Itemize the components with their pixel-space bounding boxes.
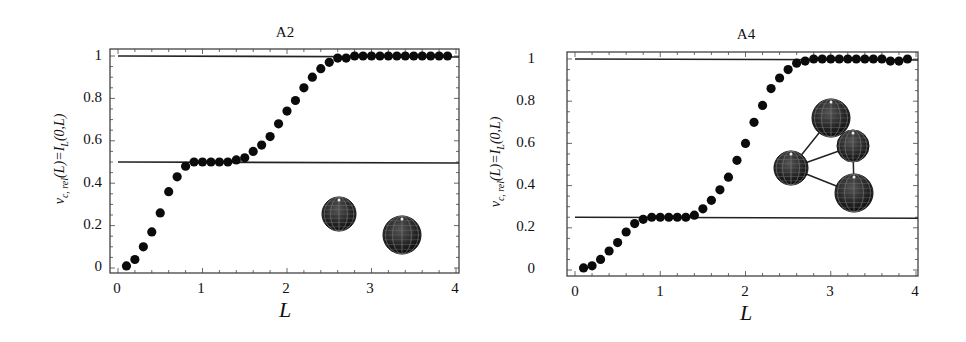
data-point xyxy=(673,213,682,222)
sphere-icon xyxy=(774,151,808,185)
data-point xyxy=(443,51,452,60)
x-tick: 4 xyxy=(905,283,925,300)
data-point xyxy=(869,54,878,63)
data-point xyxy=(903,54,912,63)
x-tick: 3 xyxy=(820,283,840,300)
data-point xyxy=(792,59,801,68)
data-point xyxy=(732,156,741,165)
data-point xyxy=(358,51,367,60)
data-point xyxy=(266,132,275,141)
data-point xyxy=(333,54,342,63)
y-tick: 0.4 xyxy=(505,176,535,193)
data-point xyxy=(139,242,148,251)
y-tick: 0 xyxy=(72,258,102,275)
data-point xyxy=(894,57,903,66)
y-tick: 0.8 xyxy=(72,89,102,106)
data-point xyxy=(435,51,444,60)
data-point xyxy=(274,119,283,128)
data-point xyxy=(775,73,784,82)
data-point xyxy=(596,255,605,264)
data-point xyxy=(758,101,767,110)
data-point xyxy=(156,208,165,217)
data-point xyxy=(164,187,173,196)
data-point xyxy=(350,51,359,60)
x-tick: 0 xyxy=(565,283,585,300)
data-point xyxy=(189,157,198,166)
data-point xyxy=(639,215,648,224)
y-tick: 0.2 xyxy=(72,216,102,233)
data-point xyxy=(707,196,716,205)
y-tick: 0.2 xyxy=(505,218,535,235)
data-point xyxy=(384,51,393,60)
data-point xyxy=(630,219,639,228)
x-tick: 0 xyxy=(107,280,127,297)
data-point xyxy=(198,157,207,166)
x-tick: 2 xyxy=(276,280,296,297)
sphere-icon xyxy=(812,99,850,137)
data-point xyxy=(342,54,351,63)
data-point xyxy=(715,185,724,194)
y-tick: 0.6 xyxy=(72,131,102,148)
data-point xyxy=(835,54,844,63)
data-point xyxy=(656,213,665,222)
chart-title: A2 xyxy=(255,24,315,41)
sphere-icon xyxy=(322,197,356,231)
data-point xyxy=(852,54,861,63)
data-point xyxy=(308,73,317,82)
data-point xyxy=(426,51,435,60)
data-point xyxy=(316,64,325,73)
data-point xyxy=(147,227,156,236)
data-point xyxy=(240,153,249,162)
chart-panel-a2: A2 vc, rel(L)=IL(0,L) L 1 0.8 0.6 0.4 0.… xyxy=(0,0,483,342)
data-point xyxy=(181,162,190,171)
reference-line xyxy=(575,217,918,218)
data-point xyxy=(826,54,835,63)
data-point xyxy=(367,51,376,60)
x-tick: 2 xyxy=(735,283,755,300)
x-tick: 1 xyxy=(650,283,670,300)
data-point xyxy=(622,227,631,236)
data-point xyxy=(860,54,869,63)
data-point xyxy=(249,147,258,156)
data-point xyxy=(843,54,852,63)
data-point xyxy=(173,172,182,181)
data-point xyxy=(130,255,139,264)
y-tick: 0 xyxy=(505,260,535,277)
y-tick: 0.4 xyxy=(72,174,102,191)
y-tick: 0.8 xyxy=(505,92,535,109)
sphere-icon xyxy=(837,130,869,162)
data-point xyxy=(613,238,622,247)
data-point xyxy=(122,261,131,270)
data-point xyxy=(698,204,707,213)
data-point xyxy=(232,155,241,164)
data-point xyxy=(877,54,886,63)
data-point xyxy=(784,65,793,74)
data-point xyxy=(749,118,758,127)
data-point xyxy=(409,51,418,60)
data-point xyxy=(690,211,699,220)
data-point xyxy=(215,157,224,166)
data-point xyxy=(809,54,818,63)
y-tick: 1 xyxy=(72,47,102,64)
data-point xyxy=(392,51,401,60)
data-point xyxy=(724,173,733,182)
x-axis-label: L xyxy=(731,300,761,326)
data-point xyxy=(664,213,673,222)
data-point xyxy=(325,58,334,67)
data-point xyxy=(818,54,827,63)
data-point xyxy=(418,51,427,60)
sphere-icon xyxy=(835,174,873,212)
data-point xyxy=(579,263,588,272)
x-tick: 3 xyxy=(360,280,380,297)
data-point xyxy=(299,83,308,92)
data-point xyxy=(291,96,300,105)
y-axis-label: vc, rel(L)=IL(0,L) xyxy=(488,52,506,272)
data-point xyxy=(886,57,895,66)
y-axis-label: vc, rel(L)=IL(0,L) xyxy=(52,49,70,269)
data-point xyxy=(681,213,690,222)
sphere-icon xyxy=(383,216,421,254)
data-point xyxy=(375,51,384,60)
data-point xyxy=(647,213,656,222)
x-axis-label: L xyxy=(270,297,300,323)
data-point xyxy=(587,261,596,270)
